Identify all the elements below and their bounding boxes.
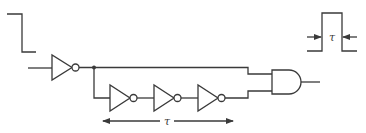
pulse-width-label: τ <box>329 31 336 44</box>
inverter-4 <box>198 85 225 111</box>
top-path-wire <box>79 68 272 75</box>
input-waveform <box>7 14 36 52</box>
delay-label: τ <box>164 115 171 128</box>
delay-dimension: τ <box>103 115 233 128</box>
circuit-diagram: τ τ <box>0 0 366 133</box>
branch-wire <box>94 68 110 99</box>
inverter-1 <box>52 55 79 80</box>
and-gate <box>272 70 301 94</box>
inverter-3 <box>154 85 181 111</box>
inverter-2 <box>110 85 137 111</box>
output-waveform: τ <box>307 13 357 51</box>
delayed-path-wire <box>225 91 272 98</box>
